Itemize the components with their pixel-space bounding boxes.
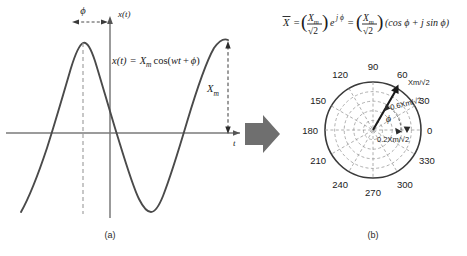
angle-label-180: 180 [302,125,318,136]
eq-num1-sub: m [314,18,319,26]
eq-exp-phi: ϕ [340,13,344,22]
panel-a-waveform: ϕ x(t) t x(t)=Xmcos(wt+ϕ) Xm (a) [0,0,250,256]
angle-label-210: 210 [310,155,326,166]
panel-a-caption: (a) [105,230,116,240]
eq-exp-e: e [330,17,335,28]
angle-label-30: 30 [419,95,430,106]
eq-lhs: x(t) [111,55,127,67]
angle-label-120: 120 [332,69,348,80]
angle-label-0: 0 [427,125,432,136]
eq-trig: (cos ϕ + j sin ϕ) [385,17,450,29]
panel-b-polar: X = ( Xm √2 ) e j ϕ = ( Xm √2 ) [267,0,467,256]
xm-label-sub: m [213,89,219,98]
radial-label-outer: Xm/√2 [408,78,430,87]
paren-close-1: ) [322,11,328,33]
xm-label-group: Xm [206,83,219,98]
x-axis-label: t [233,138,236,148]
eq-equals: = [130,55,137,66]
paren-close-2: ) [377,11,383,33]
eq-den2: √2 [363,26,373,36]
eq-exp-j: j [335,13,338,22]
svg-text:x(t)=Xmcos(wt+ϕ): x(t)=Xmcos(wt+ϕ) [111,55,200,69]
radial-label-inner: 0.2Xm/√2 [377,135,409,144]
phasor-equation: X = ( Xm √2 ) e j ϕ = ( Xm √2 ) [282,11,450,36]
angle-label-150: 150 [310,95,326,106]
phi-angle-label: ϕ [386,114,391,124]
xm-measure [225,41,230,134]
eq-plus: + [183,55,189,66]
phi-label: ϕ [80,5,86,16]
eq-xbar: X [282,17,290,28]
eq-equals-2: = [347,17,354,28]
y-axis-label: x(t) [117,9,131,19]
angle-label-270: 270 [365,187,381,198]
angle-label-330: 330 [419,155,435,166]
eq-close: ) [196,55,200,67]
radial-label-middle-text: 0.6Xm/√2 [389,95,422,111]
eq-amp-sub: m [146,60,152,69]
time-axis [6,130,240,135]
eq-num2-sub: m [369,18,374,26]
paren-open-1: ( [301,11,307,33]
figure-container: ϕ x(t) t x(t)=Xmcos(wt+ϕ) Xm (a) [0,0,467,256]
eq-equals-1: = [293,17,300,28]
angle-label-240: 240 [332,179,348,190]
angle-label-60: 60 [397,69,408,80]
radial-label-outer-text: Xm/√2 [408,78,430,87]
radial-label-middle: 0.6Xm/√2 [389,95,422,111]
angle-label-90: 90 [368,61,379,72]
radial-label-inner-text: 0.2Xm/√2 [377,135,409,144]
eq-cos: cos( [154,55,172,67]
panel-b-caption: (b) [368,230,379,240]
eq-arg: wt [171,55,182,66]
waveform-equation: x(t)=Xmcos(wt+ϕ) [111,55,200,69]
eq-den1: √2 [308,26,318,36]
paren-open-2: ( [356,11,362,33]
angle-label-300: 300 [397,179,413,190]
phi-measure [72,19,108,24]
